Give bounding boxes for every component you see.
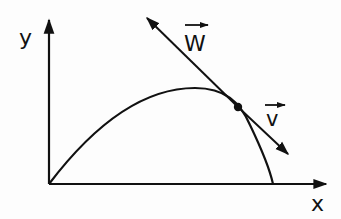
v-vector-line bbox=[238, 107, 288, 154]
trajectory-curve bbox=[49, 88, 273, 184]
x-axis-label: x bbox=[311, 191, 324, 216]
trajectory-diagram: W v y x bbox=[0, 0, 341, 219]
tangent-point bbox=[234, 103, 242, 111]
w-label: W bbox=[184, 31, 206, 56]
v-label: v bbox=[266, 107, 278, 131]
y-axis-label: y bbox=[19, 25, 32, 50]
diagram-canvas: W v y x bbox=[0, 0, 341, 219]
